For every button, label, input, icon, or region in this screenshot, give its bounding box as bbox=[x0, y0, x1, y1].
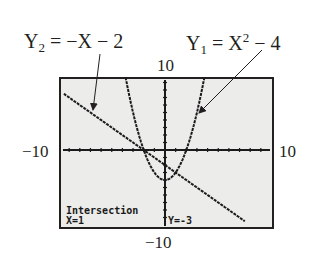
intersection-y-value: Y=-3 bbox=[168, 215, 192, 226]
calculator-graph-screen: Intersection X=1 Y=-3 bbox=[0, 0, 318, 257]
intersection-x-value: X=1 bbox=[66, 215, 84, 226]
